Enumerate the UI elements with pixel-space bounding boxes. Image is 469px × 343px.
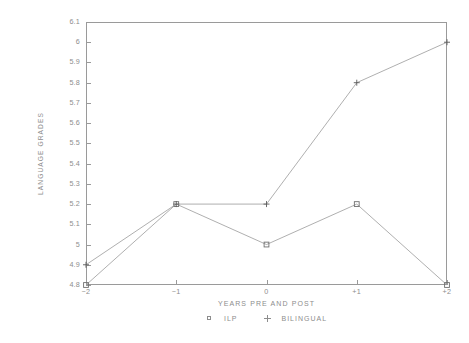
x-tick-label: 0	[247, 288, 287, 295]
y-axis-title: LANGUAGE GRADES	[34, 22, 48, 285]
y-tick-label: 5	[56, 241, 80, 248]
legend-label: BILINGUAL	[281, 315, 327, 322]
y-tick-label: 5.8	[56, 79, 80, 86]
y-tick-mark	[86, 265, 91, 266]
legend-item-ilp: ILP	[206, 314, 238, 323]
y-tick-label: 5.1	[56, 221, 80, 228]
x-axis-title: YEARS PRE AND POST	[86, 300, 447, 307]
line-chart: 6.165.95.85.75.65.55.45.35.25.154.94.8 −…	[0, 0, 469, 343]
y-tick-label: 5.2	[56, 200, 80, 207]
legend-item-bilingual: BILINGUAL	[263, 314, 327, 323]
x-tick-mark	[267, 280, 268, 285]
y-tick-mark	[86, 123, 91, 124]
legend-label: ILP	[224, 315, 238, 322]
x-tick-label: −1	[156, 288, 196, 295]
x-tick-mark	[447, 280, 448, 285]
y-tick-label: 4.9	[56, 261, 80, 268]
x-tick-mark	[86, 280, 87, 285]
chart-legend: ILPBILINGUAL	[86, 314, 447, 323]
y-tick-label: 6	[56, 39, 80, 46]
y-tick-mark	[86, 224, 91, 225]
y-tick-mark	[86, 83, 91, 84]
y-tick-label: 5.3	[56, 180, 80, 187]
y-tick-label: 5.4	[56, 160, 80, 167]
y-tick-mark	[86, 164, 91, 165]
x-tick-label: +2	[427, 288, 467, 295]
y-axis-tick-labels: 6.165.95.85.75.65.55.45.35.25.154.94.8	[52, 22, 80, 285]
y-tick-mark	[86, 143, 91, 144]
y-tick-label: 5.6	[56, 120, 80, 127]
square-marker-icon	[206, 314, 215, 323]
y-tick-mark	[86, 62, 91, 63]
y-tick-mark	[86, 22, 91, 23]
x-tick-mark	[176, 280, 177, 285]
plus-marker-icon	[263, 314, 272, 323]
y-tick-label: 5.9	[56, 59, 80, 66]
plot-area	[86, 22, 447, 285]
y-tick-label: 6.1	[56, 18, 80, 25]
y-tick-mark	[86, 204, 91, 205]
y-tick-mark	[86, 245, 91, 246]
x-tick-label: +1	[337, 288, 377, 295]
y-tick-label: 5.5	[56, 140, 80, 147]
x-tick-mark	[357, 280, 358, 285]
y-tick-mark	[86, 42, 91, 43]
y-tick-mark	[86, 103, 91, 104]
y-tick-mark	[86, 184, 91, 185]
y-tick-mark	[86, 285, 91, 286]
x-axis-tick-labels: −2−10+1+2	[86, 288, 447, 300]
x-tick-label: −2	[66, 288, 106, 295]
y-tick-label: 5.7	[56, 99, 80, 106]
